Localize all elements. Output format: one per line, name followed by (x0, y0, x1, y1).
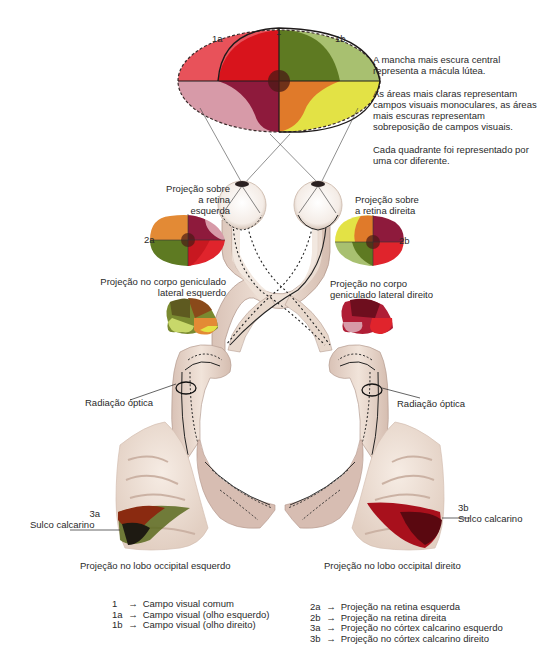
label-3a: 3a (40, 508, 100, 519)
legend-visual-fields: 1→ Campo visual comum 1a→ Campo visual (… (112, 599, 269, 631)
label-optic-radiation-right: Radiação óptica (397, 398, 465, 409)
label-sulcus-right: Sulco calcarino (458, 513, 522, 524)
note-quadrants: Cada quadrante foi representado por uma … (373, 144, 543, 166)
note-macula: A mancha mais escura central representa … (373, 54, 543, 76)
legend-row: 1b→ Campo visual (olho direito) (112, 620, 269, 631)
label-3b: 3b (458, 502, 469, 513)
right-eye (294, 181, 342, 230)
retina-projection-2a (148, 210, 228, 270)
label-lgn-right: Projeção no corpo geniculado lateral dir… (330, 278, 433, 300)
label-occipital-right: Projeção no lobo occipital direito (324, 560, 461, 571)
legend-projections: 2a→ Projeção na retina esquerda 2b→ Proj… (310, 602, 503, 644)
lgn-projection-left (166, 298, 218, 335)
label-field-1a: 1a (212, 33, 223, 44)
label-occipital-left: Projeção no lobo occipital esquerdo (80, 560, 231, 571)
label-optic-radiation-left: Radiação óptica (85, 397, 153, 408)
lgn-projection-right (341, 299, 393, 334)
label-2b: 2b (399, 235, 410, 246)
occipital-section-left (197, 440, 275, 528)
macula (268, 70, 290, 92)
label-field-1b: 1b (335, 33, 346, 44)
occipital-section-right (285, 440, 363, 528)
label-retina-left: Projeção sobre a retina esquerda (130, 183, 230, 216)
projection-line (243, 134, 290, 185)
label-2a: 2a (144, 234, 155, 245)
label-field-1: 1 (276, 26, 281, 37)
label-retina-right: Projeção sobre a retina direita (355, 194, 419, 216)
visual-field (170, 25, 389, 185)
legend-row: 3b→ Projeção no córtex calcarino direito (310, 634, 503, 645)
label-lgn-left: Projeção no corpo geniculado lateral esq… (90, 276, 226, 298)
note-monocular: As áreas mais claras representam campos … (373, 88, 543, 132)
projection-line (270, 134, 320, 185)
label-sulcus-left: Sulco calcarino (30, 519, 94, 530)
